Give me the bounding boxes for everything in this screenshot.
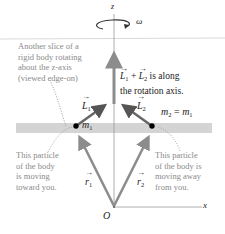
slice-annotation: Another slice of a rigid body rotating a…: [18, 41, 82, 83]
origin-label: O: [103, 210, 110, 221]
m2-label: m2 = m1: [161, 106, 193, 118]
omega-label: ω: [136, 16, 142, 26]
left-particle-annotation: This particle of the body is moving towa…: [16, 150, 59, 192]
L1-label: L1: [82, 100, 91, 112]
top-slice-line: [0, 38, 225, 39]
x-axis-label: x: [203, 200, 207, 210]
slice-leader-line: [50, 80, 66, 126]
sum-annotation: L1 + is along+ L2 is along the rotation …: [120, 70, 184, 97]
r2-label: r2: [137, 176, 144, 188]
m1-label: m1: [82, 119, 92, 131]
right-particle-annotation: This particle of the body is moving away…: [155, 150, 202, 192]
mass-2-dot: [149, 123, 154, 128]
mass-1-dot: [73, 123, 78, 128]
L2-label: L2: [137, 100, 146, 112]
r1-label: r1: [85, 176, 92, 188]
z-axis-label: z: [111, 2, 114, 11]
